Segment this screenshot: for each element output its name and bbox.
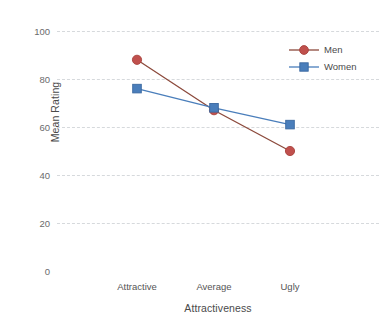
legend-item-men[interactable]: Men (288, 42, 378, 57)
line-chart: 020406080100 Mean Rating AttractiveAvera… (0, 0, 381, 324)
x-axis-title: Attractiveness (57, 302, 379, 314)
chart-legend: MenWomen (288, 42, 378, 76)
x-axis-tick-label: Attractive (117, 281, 157, 292)
legend-marker-circle-icon (288, 43, 320, 57)
legend-marker-square-icon (288, 60, 320, 74)
x-axis-tick-labels: AttractiveAverageUgly (0, 281, 381, 297)
x-axis-tick-label: Ugly (280, 281, 299, 292)
data-point-women-ugly (286, 120, 295, 129)
legend-label: Women (324, 61, 357, 72)
legend-item-women[interactable]: Women (288, 59, 378, 74)
legend-label: Men (324, 44, 342, 55)
data-point-men-ugly (285, 146, 294, 155)
data-point-women-average (210, 104, 219, 113)
data-point-women-attractive (133, 84, 142, 93)
x-axis-tick-label: Average (196, 281, 231, 292)
data-point-men-attractive (132, 55, 141, 64)
